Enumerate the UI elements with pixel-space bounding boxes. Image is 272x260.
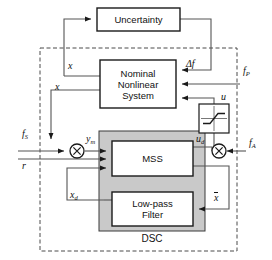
subscript-s: S xyxy=(25,133,28,140)
block-uncertainty[interactable] xyxy=(97,8,180,31)
signal-label-r: r xyxy=(22,161,26,171)
subscript-d: d xyxy=(201,138,204,145)
signal-label-f-a: fA xyxy=(249,138,256,150)
signal-label-y-m: ym xyxy=(86,134,95,146)
signal-label-x-d: xd xyxy=(70,190,78,202)
overline-wrapper: x xyxy=(214,193,218,203)
signal-label-delta-f: Δf xyxy=(186,59,195,69)
wire-x-to-mixer xyxy=(51,90,100,139)
signal-label-u-d: ud xyxy=(196,134,204,146)
signal-label-f-p: fP xyxy=(243,66,250,78)
signal-label-u: u xyxy=(221,92,226,102)
subscript-m: m xyxy=(90,138,95,145)
signal-label-x-upper: x xyxy=(68,61,72,71)
signal-label-x-lower: x xyxy=(55,82,59,92)
subscript-a: A xyxy=(252,142,256,149)
subscript-p: P xyxy=(246,70,250,77)
block-nominal-nonlinear-system[interactable] xyxy=(100,60,176,108)
subscript-d2: d xyxy=(74,194,77,201)
signal-label-f-s: fS xyxy=(22,129,28,141)
block-mss[interactable] xyxy=(112,141,193,176)
block-low-pass-filter[interactable] xyxy=(112,192,193,226)
wire-uncertainty-to-deltaf xyxy=(180,19,211,70)
signal-label-x-bar: x xyxy=(214,193,218,203)
block-diagram-canvas: Uncertainty Nominal Nonlinear System MSS… xyxy=(0,0,272,260)
wire-u-to-nns xyxy=(182,98,214,104)
diagram-svg xyxy=(0,0,272,260)
